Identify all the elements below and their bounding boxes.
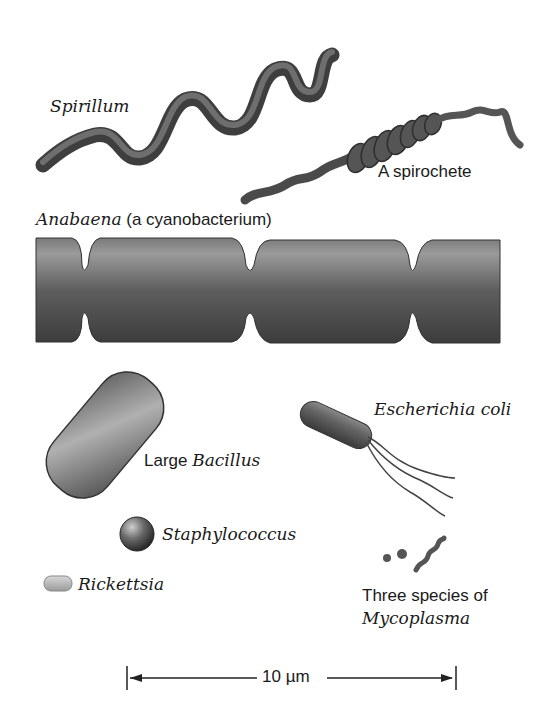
label-anabaena: Anabaena (a cyanobacterium) [36, 209, 272, 230]
label-spirochete: A spirochete [378, 162, 472, 182]
label-anabaena-desc: (a cyanobacterium) [122, 210, 272, 229]
scale-bar-label: 10 µm [262, 667, 310, 687]
label-rickettsia: Rickettsia [78, 574, 164, 594]
label-mycoplasma: Three species of Mycoplasma [362, 585, 488, 629]
label-staphylococcus: Staphylococcus [162, 524, 296, 544]
label-mycoplasma-prefix: Three species of [362, 585, 488, 607]
staphylococcus-shape [120, 517, 154, 551]
label-bacillus-genus: Bacillus [192, 450, 260, 470]
label-mycoplasma-genus: Mycoplasma [362, 607, 488, 629]
anabaena-shape [36, 237, 536, 343]
label-bacillus-prefix: Large [144, 451, 192, 470]
label-ecoli: Escherichia coli [374, 399, 511, 419]
mycoplasma-shapes [383, 538, 444, 570]
bacillus-shape [33, 359, 177, 511]
label-anabaena-genus: Anabaena [36, 209, 122, 229]
label-spirillum: Spirillum [50, 96, 129, 116]
spirochete-shape [245, 110, 520, 200]
label-bacillus: Large Bacillus [144, 450, 260, 471]
rickettsia-shape [44, 576, 72, 591]
